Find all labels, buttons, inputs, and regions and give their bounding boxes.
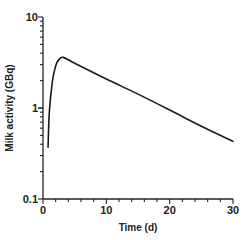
y-tick-label-0.1: 0.1 [23, 193, 38, 205]
x-tick-label-0: 0 [40, 204, 46, 216]
y-axis-title: Milk activity (GBq) [4, 64, 15, 151]
chart: 10 1 0.1 0 10 20 30 Time (d) Milk activi… [0, 0, 250, 240]
x-axis-title: Time (d) [119, 222, 158, 233]
x-tick-label-10: 10 [100, 204, 112, 216]
y-tick-labels: 10 1 0.1 [23, 11, 38, 205]
x-tick-labels: 0 10 20 30 [40, 204, 239, 216]
x-tick-label-30: 30 [227, 204, 239, 216]
axes [38, 17, 233, 204]
y-ticks [38, 17, 43, 199]
x-ticks [43, 199, 233, 204]
y-tick-label-1: 1 [32, 102, 38, 114]
x-tick-label-20: 20 [164, 204, 176, 216]
data-line [48, 57, 233, 147]
y-tick-label-10: 10 [26, 11, 38, 23]
